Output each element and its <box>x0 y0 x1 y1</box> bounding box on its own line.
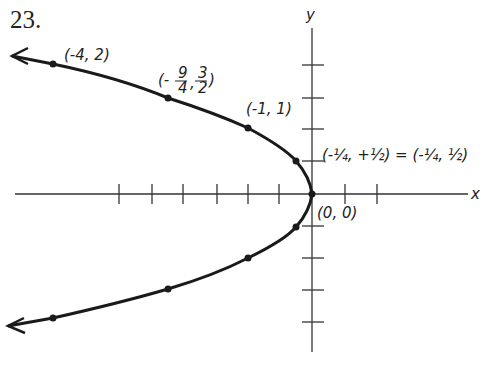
point-label-neg4-2: (-4, 2) <box>64 46 110 64</box>
point-label-neg9over4-3over2: (- 9 4 , 3 2 ) <box>158 64 215 97</box>
parabola-graph: y x (-4, 2) (- 9 4 , 3 2 ) (-1, 1) (-¼, … <box>0 0 494 387</box>
axes <box>15 28 468 352</box>
origin-label: (0, 0) <box>317 204 357 222</box>
point-label-neg1-1: (-1, 1) <box>246 100 292 118</box>
svg-text:(-: (- <box>158 71 169 89</box>
svg-text:4: 4 <box>178 79 188 97</box>
svg-text:2: 2 <box>198 79 208 97</box>
y-axis-label: y <box>305 6 316 24</box>
x-axis-label: x <box>470 185 480 203</box>
svg-text:,: , <box>190 74 195 92</box>
parabola-curve <box>8 56 312 326</box>
svg-text:): ) <box>208 71 215 89</box>
arrowheads <box>8 48 28 333</box>
point-label-neg1over4-1over2: (-¼, +½) = (-¼, ½) <box>322 146 468 164</box>
